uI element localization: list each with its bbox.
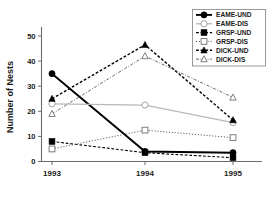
y-tick-label-0: 0 (31, 157, 35, 166)
data-point-grsp-dis-1993 (49, 146, 55, 152)
data-point-dick-und-1994 (142, 41, 148, 47)
y-axis-title: Number of Nests (5, 61, 15, 133)
y-tick-label-40: 40 (27, 57, 35, 66)
x-tick-label-1995: 1995 (224, 169, 242, 178)
data-point-grsp-dis-1995 (230, 135, 236, 141)
data-point-dick-dis-1995 (230, 94, 236, 100)
x-tick-label-1993: 1993 (43, 169, 61, 178)
data-point-grsp-und-1995 (230, 155, 236, 161)
legend-label-grsp-und: GRSP-UND (216, 29, 251, 36)
data-point-eame-und-1993 (49, 71, 55, 77)
data-point-grsp-dis-1994 (142, 127, 148, 133)
data-point-dick-dis-1993 (49, 110, 55, 116)
legend-label-eame-und: EAME-UND (216, 11, 252, 18)
x-tick-label-1994: 1994 (136, 169, 154, 178)
y-tick-label-50: 50 (27, 32, 35, 41)
legend-label-dick-und: DICK-UND (216, 47, 249, 54)
data-point-eame-dis-1994 (142, 102, 148, 108)
legend-marker-eame-dis (201, 21, 207, 27)
legend-label-grsp-dis: GRSP-DIS (216, 38, 248, 45)
y-tick-label-30: 30 (27, 82, 35, 91)
data-point-grsp-und-1994 (142, 150, 148, 156)
legend-label-eame-dis: EAME-DIS (216, 20, 249, 27)
data-point-dick-und-1995 (230, 117, 236, 123)
chart-legend: EAME-UNDEAME-DISGRSP-UNDGRSP-DISDICK-UND… (193, 10, 266, 67)
legend-marker-eame-und (201, 12, 207, 18)
legend-label-dick-dis: DICK-DIS (216, 56, 246, 63)
data-point-dick-dis-1994 (142, 53, 148, 59)
data-point-grsp-und-1993 (49, 139, 55, 145)
y-tick-label-10: 10 (27, 132, 35, 141)
data-point-dick-und-1993 (49, 95, 55, 101)
y-tick-label-20: 20 (27, 107, 35, 116)
legend-marker-grsp-dis (201, 39, 207, 45)
chart-figure: 01020304050199319941995Number of Nests E… (0, 0, 268, 197)
legend-marker-grsp-und (201, 30, 207, 36)
series-line-eame-und (52, 74, 233, 153)
line-chart: 01020304050199319941995Number of Nests E… (0, 0, 268, 197)
